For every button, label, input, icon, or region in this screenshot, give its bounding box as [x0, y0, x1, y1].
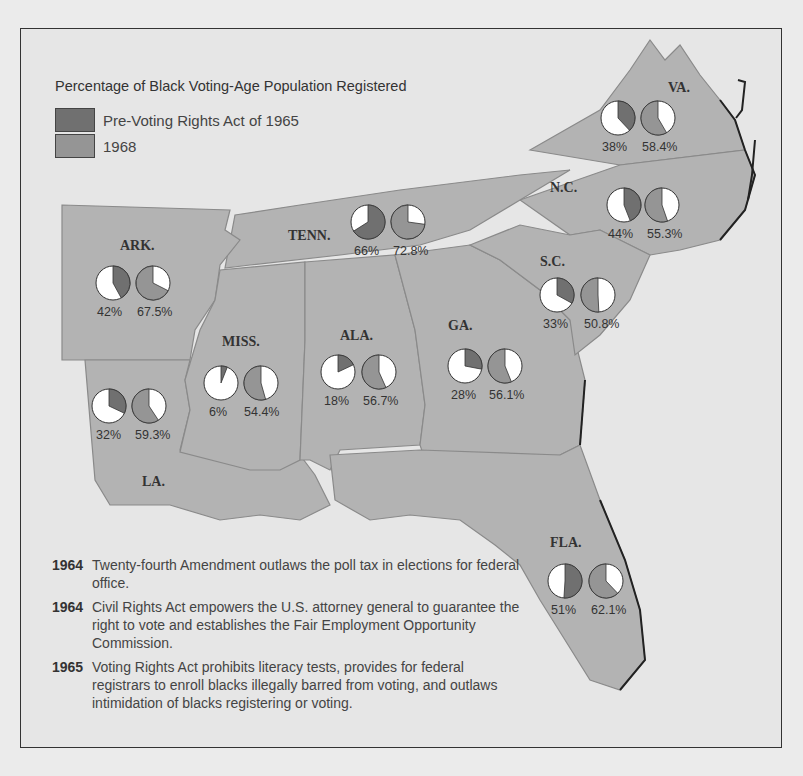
- events-list: 1964 Twenty-fourth Amendment outlaws the…: [52, 556, 522, 718]
- pct-ga-pre: 28%: [451, 388, 476, 402]
- pct-la-1968: 59.3%: [135, 428, 170, 442]
- pct-miss-1968: 54.4%: [244, 405, 279, 419]
- pct-ark-1968: 67.5%: [137, 305, 172, 319]
- state-label-la: LA.: [142, 474, 165, 490]
- pct-la-pre: 32%: [96, 428, 121, 442]
- legend-swatch-pre-1965: [55, 108, 95, 132]
- state-va: [530, 40, 745, 165]
- event-text: Voting Rights Act prohibits literacy tes…: [92, 658, 522, 712]
- pct-fla-1968: 62.1%: [591, 603, 626, 617]
- event-year: 1964: [52, 598, 92, 652]
- pct-nc-pre: 44%: [608, 227, 633, 241]
- event-year: 1964: [52, 556, 92, 592]
- pct-miss-pre: 6%: [209, 405, 227, 419]
- event-item: 1964 Civil Rights Act empowers the U.S. …: [52, 598, 522, 652]
- legend-title: Percentage of Black Voting-Age Populatio…: [55, 78, 406, 94]
- state-label-tenn: TENN.: [288, 228, 330, 244]
- pct-tenn-1968: 72.8%: [393, 244, 428, 258]
- state-label-nc: N.C.: [550, 180, 577, 196]
- pct-va-pre: 38%: [602, 140, 627, 154]
- pct-ark-pre: 42%: [97, 305, 122, 319]
- pct-ala-1968: 56.7%: [363, 394, 398, 408]
- pct-ga-1968: 56.1%: [489, 388, 524, 402]
- legend-label-1968: 1968: [103, 138, 136, 155]
- event-item: 1965 Voting Rights Act prohibits literac…: [52, 658, 522, 712]
- event-year: 1965: [52, 658, 92, 712]
- state-label-sc: S.C.: [540, 254, 565, 270]
- state-label-va: VA.: [668, 80, 690, 96]
- pct-ala-pre: 18%: [324, 394, 349, 408]
- state-label-fla: FLA.: [550, 535, 582, 551]
- pct-tenn-pre: 66%: [354, 244, 379, 258]
- state-label-miss: MISS.: [222, 334, 260, 350]
- event-text: Civil Rights Act empowers the U.S. attor…: [92, 598, 522, 652]
- state-label-ark: ARK.: [120, 238, 155, 254]
- state-label-ga: GA.: [448, 318, 473, 334]
- event-text: Twenty-fourth Amendment outlaws the poll…: [92, 556, 522, 592]
- pct-va-1968: 58.4%: [642, 140, 677, 154]
- event-item: 1964 Twenty-fourth Amendment outlaws the…: [52, 556, 522, 592]
- pct-sc-pre: 33%: [543, 317, 568, 331]
- pct-sc-1968: 50.8%: [584, 317, 619, 331]
- legend-item-pre-1965: Pre-Voting Rights Act of 1965: [55, 108, 299, 132]
- pct-fla-pre: 51%: [551, 603, 576, 617]
- legend-label-pre-1965: Pre-Voting Rights Act of 1965: [103, 112, 299, 129]
- legend-item-1968: 1968: [55, 134, 136, 158]
- pct-nc-1968: 55.3%: [647, 227, 682, 241]
- state-label-ala: ALA.: [340, 328, 373, 344]
- legend-swatch-1968: [55, 134, 95, 158]
